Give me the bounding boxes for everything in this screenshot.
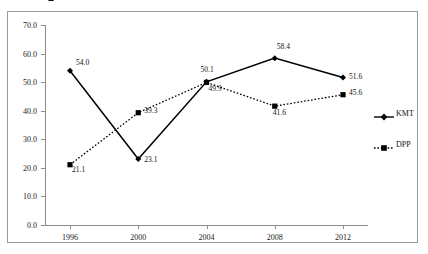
data-point-kmt bbox=[340, 75, 346, 81]
y-tick-label: 70.0 bbox=[11, 21, 37, 30]
point-label-kmt-2008: 58.4 bbox=[277, 42, 290, 51]
x-tick-label: 2000 bbox=[130, 233, 146, 242]
top-cropped-glyph: 2 bbox=[44, 0, 58, 3]
y-tick-label: 10.0 bbox=[11, 192, 37, 201]
y-tick-label: 50.0 bbox=[11, 78, 37, 87]
point-label-dpp-2012: 45.6 bbox=[349, 88, 362, 97]
point-label-kmt-2004: 50.1 bbox=[201, 65, 214, 74]
point-label-dpp-1996: 21.1 bbox=[72, 165, 85, 174]
point-label-kmt-1996: 54.0 bbox=[76, 58, 89, 67]
data-point-dpp bbox=[340, 92, 345, 97]
point-label-kmt-2000: 23.1 bbox=[144, 155, 157, 164]
y-tick-label: 20.0 bbox=[11, 163, 37, 172]
legend-symbol-dpp bbox=[374, 139, 394, 149]
y-tick-label: 0.0 bbox=[11, 221, 37, 230]
x-tick-mark bbox=[70, 225, 71, 229]
x-tick-mark bbox=[275, 225, 276, 229]
point-label-dpp-2000: 39.3 bbox=[144, 106, 157, 115]
plot-area: 0.010.020.030.040.050.060.070.0 19962000… bbox=[45, 25, 368, 235]
legend-label-dpp: DPP bbox=[396, 140, 411, 149]
y-tick-label: 30.0 bbox=[11, 135, 37, 144]
legend-item-dpp: DPP bbox=[374, 135, 428, 153]
legend-item-kmt: KMT bbox=[374, 104, 428, 122]
legend-label-kmt: KMT bbox=[396, 109, 414, 118]
x-tick-mark bbox=[138, 225, 139, 229]
series-plot bbox=[45, 25, 368, 225]
data-point-dpp bbox=[136, 110, 141, 115]
x-tick-label: 1996 bbox=[62, 233, 78, 242]
point-label-dpp-2008: 41.6 bbox=[273, 108, 286, 117]
x-tick-label: 2004 bbox=[199, 233, 215, 242]
chart-legend: KMT DPP bbox=[374, 104, 428, 166]
y-tick-label: 40.0 bbox=[11, 106, 37, 115]
y-tick-mark bbox=[41, 225, 45, 226]
legend-symbol-kmt bbox=[374, 108, 394, 118]
x-tick-label: 2008 bbox=[267, 233, 283, 242]
data-point-kmt bbox=[272, 55, 278, 61]
x-tick-mark bbox=[343, 225, 344, 229]
chart-frame: 0.010.020.030.040.050.060.070.0 19962000… bbox=[7, 11, 418, 243]
x-tick-label: 2012 bbox=[335, 233, 351, 242]
y-tick-label: 60.0 bbox=[11, 49, 37, 58]
point-label-kmt-2012: 51.6 bbox=[349, 72, 362, 81]
x-tick-mark bbox=[207, 225, 208, 229]
point-label-dpp-2004: 49.9 bbox=[209, 84, 222, 93]
